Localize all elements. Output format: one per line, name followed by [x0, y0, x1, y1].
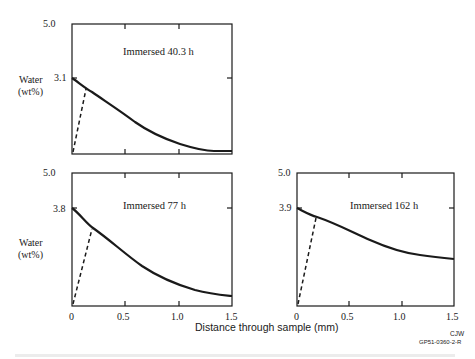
figure-canvas: 5.0 3.1 Water (wt%) Immersed 40.3 h 5.0 … — [0, 0, 475, 359]
y-axis-label-line2: (wt%) — [18, 249, 43, 261]
extrapolation-line — [73, 229, 92, 304]
panel-title: Immersed 77 h — [123, 200, 187, 211]
y-tick-5.0: 5.0 — [278, 167, 291, 178]
y-axis-label-line1: Water — [19, 237, 43, 248]
plot-frame — [72, 24, 232, 154]
credit-initials: CJW — [450, 330, 465, 337]
profile-curve — [72, 78, 232, 151]
y-tick-3.8: 3.8 — [53, 203, 66, 214]
x-tick-1.0: 1.0 — [171, 311, 184, 322]
panel-40h: 5.0 3.1 Water (wt%) Immersed 40.3 h — [18, 18, 232, 154]
x-tick-0.5: 0.5 — [341, 311, 354, 322]
y-axis-label-line2: (wt%) — [18, 86, 43, 98]
plot-frame — [72, 173, 232, 306]
panel-title: Immersed 40.3 h — [123, 46, 195, 57]
profile-curve — [72, 208, 232, 296]
panel-77h: 5.0 3.8 Water (wt%) Immersed 77 h 0 0.5 … — [18, 167, 238, 322]
y-axis-label-line1: Water — [19, 74, 43, 85]
x-tick-0: 0 — [69, 311, 74, 322]
y-tick-3.1: 3.1 — [54, 72, 67, 83]
plot-frame — [297, 173, 454, 306]
y-tick-3.9: 3.9 — [279, 202, 292, 213]
x-tick-1.0: 1.0 — [393, 311, 406, 322]
panel-162h: 5.0 3.9 Immersed 162 h 0 0.5 1.0 1.5 — [278, 167, 459, 322]
x-axis-label: Distance through sample (mm) — [195, 321, 339, 333]
truncated-caption — [15, 354, 455, 357]
y-tick-5.0: 5.0 — [43, 18, 56, 29]
x-tick-1.5: 1.5 — [446, 311, 459, 322]
x-tick-0.5: 0.5 — [117, 311, 130, 322]
panel-title: Immersed 162 h — [350, 200, 419, 211]
extrapolation-line — [73, 89, 86, 152]
extrapolation-line — [298, 218, 316, 304]
profile-curve — [297, 208, 454, 259]
y-tick-5.0: 5.0 — [43, 167, 56, 178]
credit-code: GP51-0360-2-R — [419, 339, 462, 345]
